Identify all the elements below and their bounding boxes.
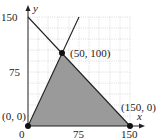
point-origin xyxy=(25,123,31,129)
tick-y-75: 75 xyxy=(9,66,21,78)
tick-x-75: 75 xyxy=(73,128,85,139)
y-axis-arrow-icon xyxy=(26,5,31,11)
tick-x-0: 0 xyxy=(19,128,25,139)
tick-x-150: 150 xyxy=(121,128,138,139)
label-point-vertex: (50, 100) xyxy=(70,47,111,60)
y-axis-label: y xyxy=(32,2,38,14)
label-point-x-intercept: (150, 0) xyxy=(121,101,156,114)
x-axis-arrow-icon xyxy=(139,124,145,129)
tick-y-150: 150 xyxy=(1,11,18,23)
feasible-region-chart: y x 150 75 0 75 150 (0, 0) (50, 100) (15… xyxy=(0,0,157,139)
label-point-origin: (0, 0) xyxy=(2,110,26,123)
point-vertex xyxy=(59,50,65,56)
